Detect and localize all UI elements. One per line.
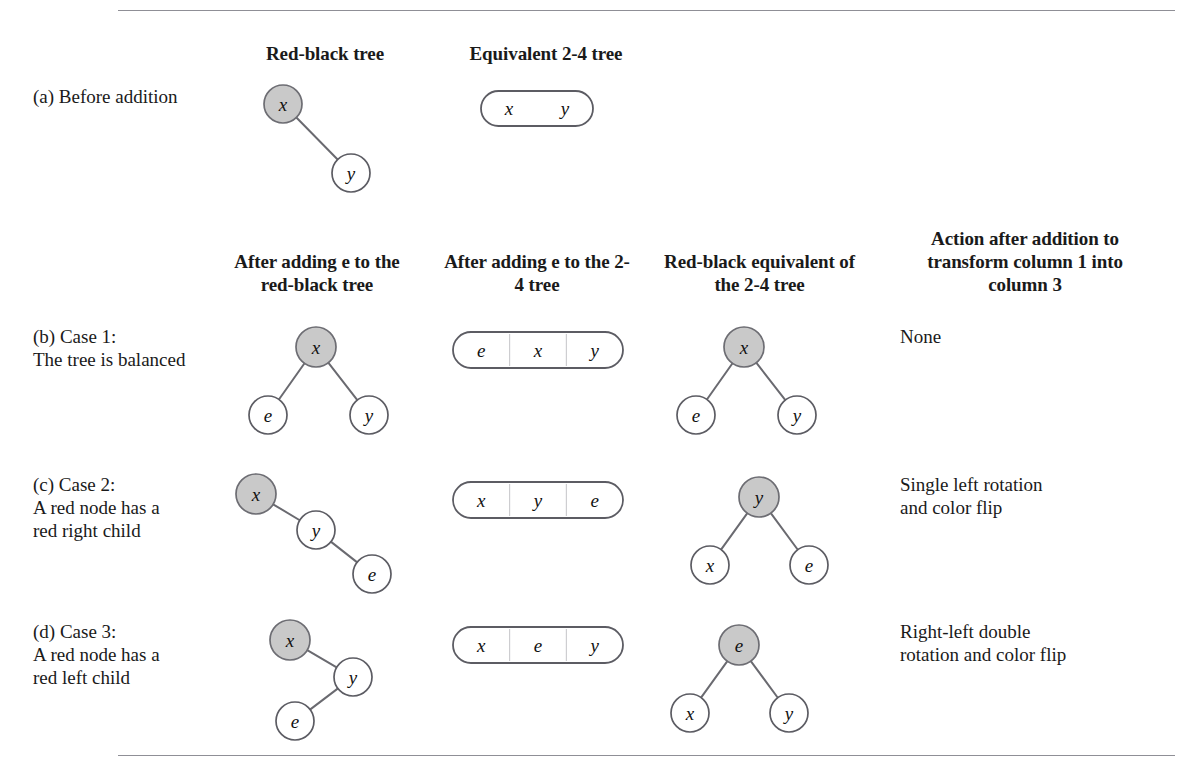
- node-label: e: [291, 711, 299, 732]
- tree-node-c-c1-y: y: [297, 511, 335, 549]
- two-four-cell-label: x: [533, 340, 543, 361]
- two-four-cell-label: y: [588, 340, 599, 361]
- row-c-col3-edge-1: [770, 512, 798, 550]
- two-four-node-box: [481, 91, 593, 126]
- node-label: x: [285, 630, 295, 651]
- tree-node-d-c1-y: y: [334, 658, 372, 696]
- node-label: e: [692, 405, 700, 426]
- node-label: x: [251, 484, 261, 505]
- row-d-col1-tree: xye: [270, 620, 372, 740]
- c-box-24node: xye: [453, 482, 623, 518]
- tree-node-b-c1-e: e: [249, 396, 287, 434]
- node-label: x: [278, 94, 288, 115]
- tree-node-d-c1-x: x: [270, 620, 310, 660]
- row-b-col1-tree: xey: [249, 327, 388, 434]
- tree-node-c-c3-y: y: [739, 477, 779, 517]
- node-label: y: [347, 667, 358, 688]
- two-four-cell-label: e: [477, 340, 485, 361]
- row-b-col1-edge-1: [328, 362, 358, 401]
- two-four-cell-label: x: [504, 98, 514, 119]
- tree-node-d-c3-y: y: [770, 694, 808, 732]
- two-four-cell-label: e: [534, 635, 542, 656]
- two-four-cell-label: y: [559, 98, 570, 119]
- node-label: e: [735, 635, 743, 656]
- row-c-col3-edge-0: [721, 512, 748, 550]
- row-c-col1-edge-1: [330, 541, 358, 563]
- row-b-col1-edge-0: [278, 363, 305, 401]
- two-four-cell-label: e: [590, 490, 598, 511]
- node-label: x: [739, 337, 749, 358]
- node-label: y: [753, 487, 764, 508]
- node-label: x: [311, 337, 321, 358]
- row-d-col3-tree: exy: [671, 625, 808, 732]
- tree-node-a-c1-x: x: [264, 85, 302, 123]
- diagram-art-layer: xyxyxeyexyxeyxyexyeyxexyexeyexy: [0, 0, 1183, 769]
- node-label: e: [805, 555, 813, 576]
- two-four-cell-label: y: [588, 635, 599, 656]
- two-four-cell-label: y: [532, 490, 543, 511]
- tree-node-d-c1-e: e: [276, 702, 314, 740]
- row-b-col3-edge-0: [706, 363, 733, 401]
- node-label: e: [264, 405, 272, 426]
- row-b-col3-tree: xey: [677, 327, 816, 434]
- tree-node-b-c3-x: x: [724, 327, 764, 367]
- tree-node-d-c3-e: e: [719, 625, 759, 665]
- row-d-col3-edge-1: [750, 660, 778, 698]
- tree-node-b-c3-e: e: [677, 396, 715, 434]
- tree-node-a-c1-y: y: [332, 154, 370, 192]
- two-four-cell-label: x: [476, 490, 486, 511]
- figure-root: Red-black tree Equivalent 2-4 tree After…: [0, 0, 1183, 769]
- tree-node-c-c1-x: x: [236, 474, 276, 514]
- node-label: x: [685, 703, 695, 724]
- a-box-24node: xy: [481, 91, 593, 126]
- tree-node-b-c3-y: y: [778, 396, 816, 434]
- node-label: y: [310, 520, 321, 541]
- node-label: x: [705, 555, 715, 576]
- tree-node-b-c1-x: x: [296, 327, 336, 367]
- tree-node-b-c1-y: y: [350, 396, 388, 434]
- node-label: y: [363, 405, 374, 426]
- tree-node-c-c3-x: x: [691, 546, 729, 584]
- node-label: y: [783, 703, 794, 724]
- row-d-col1-edge-1: [309, 688, 338, 710]
- row-d-col1-edge-0: [306, 650, 337, 668]
- tree-node-d-c3-x: x: [671, 694, 709, 732]
- tree-node-c-c3-e: e: [790, 546, 828, 584]
- d-box-24node: xey: [453, 627, 623, 663]
- row-b-col3-edge-1: [756, 362, 786, 401]
- row-a-col1-tree: xy: [264, 85, 370, 192]
- row-c-col1-tree: xye: [236, 474, 391, 593]
- node-label: y: [345, 163, 356, 184]
- tree-node-c-c1-e: e: [353, 555, 391, 593]
- node-label: y: [791, 405, 802, 426]
- row-a-col1-edge-0: [296, 117, 339, 160]
- node-label: e: [368, 564, 376, 585]
- row-d-col3-edge-0: [701, 660, 728, 698]
- b-box-24node: exy: [453, 332, 623, 368]
- row-c-col3-tree: yxe: [691, 477, 828, 584]
- two-four-cell-label: x: [476, 635, 486, 656]
- row-c-col1-edge-0: [272, 504, 300, 521]
